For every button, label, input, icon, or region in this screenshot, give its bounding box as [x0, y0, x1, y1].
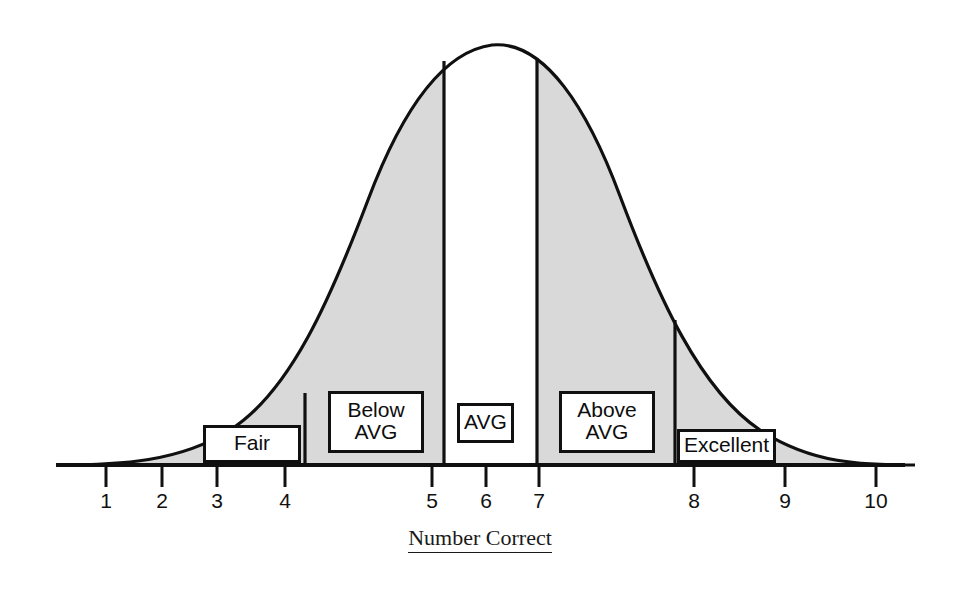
tick-label-4: 4: [279, 489, 291, 513]
tick-label-6: 6: [480, 489, 492, 513]
chart-caption: Number Correct: [0, 525, 960, 551]
band-label-fair: Fair: [203, 425, 301, 463]
tick-label-1: 1: [100, 489, 112, 513]
tick-label-3: 3: [211, 489, 223, 513]
band-label-excellent: Excellent: [677, 429, 776, 463]
tick-label-10: 10: [864, 489, 887, 513]
chart-caption-text: Number Correct: [408, 525, 552, 553]
tick-label-9: 9: [779, 489, 791, 513]
band-label-above-avg: Above AVG: [559, 391, 655, 453]
tick-label-8: 8: [688, 489, 700, 513]
x-axis-ticks: [106, 466, 876, 487]
figure-container: 1 2 3 4 5 6 7 8 9 10 Fair Below AVG AVG …: [0, 0, 960, 597]
band-label-avg: AVG: [457, 403, 514, 443]
band-label-below-avg: Below AVG: [328, 391, 424, 453]
tick-label-2: 2: [156, 489, 168, 513]
tick-label-5: 5: [426, 489, 438, 513]
tick-label-7: 7: [533, 489, 545, 513]
